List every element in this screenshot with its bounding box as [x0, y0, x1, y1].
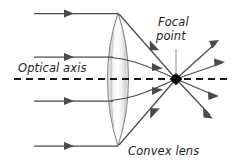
focal-point-label-line1: Focal — [158, 15, 189, 29]
optics-diagram: Optical axis Focal point Convex lens — [0, 0, 232, 162]
focal-point-label-line2: point — [155, 29, 186, 43]
convex-lens-label: Convex lens — [128, 144, 199, 158]
optical-axis-label: Optical axis — [18, 61, 87, 75]
optics-diagram-canvas: Optical axis Focal point Convex lens — [0, 0, 232, 162]
